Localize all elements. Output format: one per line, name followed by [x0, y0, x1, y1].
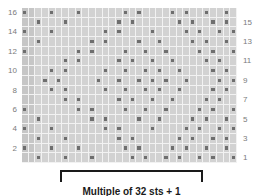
- grid-cell: [82, 27, 89, 37]
- grid-cell: [197, 66, 204, 76]
- grid-cell: [56, 115, 63, 125]
- grid-cell: [230, 134, 237, 144]
- grid-cell: [130, 105, 137, 115]
- grid-cell: [217, 105, 224, 115]
- stitch-symbol-dot: [130, 134, 137, 144]
- grid-cell: [96, 66, 103, 76]
- grid-cell: [35, 86, 42, 96]
- stitch-symbol-dot: [177, 134, 184, 144]
- stitch-symbol-dot: [177, 153, 184, 163]
- grid-cell: [49, 47, 56, 57]
- grid-cell: [109, 27, 116, 37]
- grid-cell: [56, 86, 63, 96]
- grid-cell: [35, 56, 42, 66]
- stitch-symbol-dot: [210, 66, 217, 76]
- stitch-symbol-dot: [62, 18, 69, 28]
- grid-cell: [109, 76, 116, 86]
- grid-cell: [96, 27, 103, 37]
- stitch-symbol-dot: [150, 124, 157, 134]
- grid-cell: [49, 134, 56, 144]
- stitch-symbol-dot: [156, 37, 163, 47]
- grid-cell: [156, 105, 163, 115]
- grid-cell: [150, 86, 157, 96]
- grid-cell: [217, 47, 224, 57]
- grid-cell: [116, 115, 123, 125]
- grid-cell: [203, 27, 210, 37]
- grid-cell: [56, 27, 63, 37]
- grid-cell: [156, 18, 163, 28]
- grid-cell: [103, 56, 110, 66]
- stitch-symbol-dot: [123, 144, 130, 154]
- stitch-symbol-dot: [190, 134, 197, 144]
- stitch-symbol-dot: [62, 86, 69, 96]
- grid-cell: [116, 86, 123, 96]
- stitch-symbol-dot: [177, 86, 184, 96]
- grid-cell: [103, 144, 110, 154]
- grid-cell: [29, 134, 36, 144]
- grid-cell: [109, 37, 116, 47]
- stitch-symbol-dot: [116, 95, 123, 105]
- grid-cell: [150, 37, 157, 47]
- grid-cell: [163, 115, 170, 125]
- bracket-tick-left: [60, 170, 62, 182]
- row-number-left: 6: [13, 105, 17, 115]
- grid-cell: [143, 27, 150, 37]
- grid-cell: [143, 56, 150, 66]
- grid-cell: [42, 86, 49, 96]
- grid-cell: [89, 144, 96, 154]
- grid-cell: [123, 76, 130, 86]
- grid-cell: [109, 124, 116, 134]
- stitch-symbol-dot: [103, 66, 110, 76]
- grid-cell: [123, 134, 130, 144]
- grid-cell: [143, 76, 150, 86]
- grid-cell: [116, 105, 123, 115]
- stitch-symbol-dot: [156, 86, 163, 96]
- grid-cell: [197, 115, 204, 125]
- grid-cell: [82, 8, 89, 18]
- stitch-symbol-dot: [177, 18, 184, 28]
- grid-cell: [170, 115, 177, 125]
- grid-cell: [150, 153, 157, 163]
- grid-cell: [197, 76, 204, 86]
- grid-cell: [42, 56, 49, 66]
- grid-cell: [76, 86, 83, 96]
- grid-cell: [42, 47, 49, 57]
- grid-cell: [29, 144, 36, 154]
- grid-cell: [76, 27, 83, 37]
- grid-cell: [82, 105, 89, 115]
- stitch-symbol-dot: [217, 76, 224, 86]
- stitch-symbol-dot: [116, 56, 123, 66]
- grid-cell: [29, 37, 36, 47]
- grid-cell: [82, 115, 89, 125]
- grid-cell: [197, 144, 204, 154]
- stitch-symbol-dot: [49, 144, 56, 154]
- grid-cell: [230, 18, 237, 28]
- stitch-symbol-dot: [136, 144, 143, 154]
- grid-cell: [183, 47, 190, 57]
- grid-cell: [136, 47, 143, 57]
- grid-cell: [56, 37, 63, 47]
- grid-cell: [103, 47, 110, 57]
- grid-cell: [190, 153, 197, 163]
- grid-cell: [163, 27, 170, 37]
- stitch-symbol-dot: [130, 153, 137, 163]
- grid-cell: [22, 86, 29, 96]
- bracket-bar: [60, 170, 203, 172]
- grid-cell: [136, 18, 143, 28]
- grid-cell: [35, 66, 42, 76]
- grid-cell: [76, 66, 83, 76]
- stitch-symbol-dot: [177, 66, 184, 76]
- grid-cell: [103, 95, 110, 105]
- stitch-symbol-dot: [224, 86, 231, 96]
- stitch-symbol-dot: [123, 105, 130, 115]
- grid-cell: [150, 66, 157, 76]
- grid-cell: [42, 144, 49, 154]
- row-numbers-left: 161412108642: [0, 8, 20, 164]
- row-number-right: 9: [243, 76, 247, 86]
- stitch-symbol-dot: [35, 153, 42, 163]
- stitch-symbol-dot: [150, 95, 157, 105]
- row-number-right: 7: [243, 95, 247, 105]
- grid-cell: [163, 95, 170, 105]
- grid-cell: [224, 47, 231, 57]
- grid-cell: [150, 144, 157, 154]
